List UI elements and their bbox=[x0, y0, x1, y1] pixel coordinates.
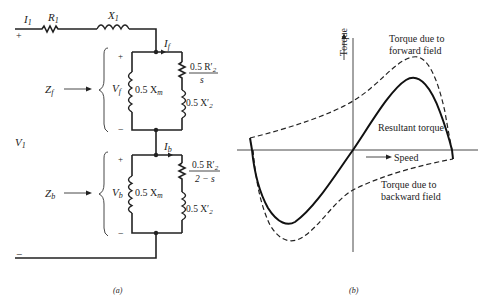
caption-a: (a) bbox=[113, 286, 123, 295]
minus-forward: − bbox=[118, 124, 124, 135]
forward-torque-curve bbox=[250, 57, 452, 150]
r2-forward-denominator: s bbox=[200, 75, 204, 85]
x-axis-label: Speed bbox=[394, 152, 418, 163]
r2-backward-resistor bbox=[179, 163, 185, 192]
r2-forward-resistor bbox=[179, 62, 185, 90]
r2-backward-denominator: 2 − s bbox=[195, 174, 215, 184]
xm-backward-label: 0.5 Xm bbox=[135, 187, 163, 200]
if-label: If bbox=[163, 37, 172, 51]
brace-backward bbox=[99, 152, 108, 236]
xm-forward-label: 0.5 Xm bbox=[135, 84, 163, 97]
forward-left-edge bbox=[250, 138, 252, 150]
top-wire-right bbox=[129, 29, 156, 52]
x2-backward-label: 0.5 X′2 bbox=[186, 204, 213, 216]
arrow-icon bbox=[86, 191, 92, 196]
node-dot bbox=[154, 50, 158, 54]
y-axis-label: Torque bbox=[338, 27, 349, 56]
node-dot bbox=[154, 153, 158, 157]
diagram-canvas: I1 R1 X1 + V1 − If Ib Zf Zb Vf Vb 0.5 Xm… bbox=[0, 0, 494, 295]
forward-label-line2: forward field bbox=[389, 45, 441, 56]
ib-label: Ib bbox=[163, 140, 172, 154]
zf-label: Zf bbox=[45, 83, 55, 97]
xm-forward-inductor bbox=[129, 72, 133, 112]
torque-speed-chart: Torque Speed Torque due to forward field… bbox=[237, 27, 478, 295]
forward-label-line1: Torque due to bbox=[389, 33, 444, 44]
arrow-right-icon bbox=[386, 155, 392, 160]
x2-forward-inductor bbox=[182, 90, 186, 118]
r2-forward-numerator: 0.5 R′2 bbox=[190, 62, 217, 74]
plus-forward: + bbox=[118, 51, 123, 61]
backward-right-edge bbox=[452, 150, 453, 159]
vb-label: Vb bbox=[112, 186, 123, 200]
backward-label-line1: Torque due to bbox=[381, 179, 436, 190]
r2-backward-numerator: 0.5 R′2 bbox=[192, 160, 219, 172]
i1-label: I1 bbox=[23, 13, 32, 27]
caption-b: (b) bbox=[349, 286, 359, 295]
equivalent-circuit: I1 R1 X1 + V1 − If Ib Zf Zb Vf Vb 0.5 Xm… bbox=[15, 9, 220, 295]
xm-backward-inductor bbox=[129, 176, 133, 213]
minus-terminal: − bbox=[16, 248, 22, 260]
resultant-label: Resultant torque bbox=[378, 122, 444, 133]
x1-label: X1 bbox=[107, 9, 119, 23]
minus-backward: − bbox=[118, 228, 124, 239]
zb-label: Zb bbox=[45, 187, 55, 201]
x1-inductor bbox=[97, 25, 129, 29]
plus-backward: + bbox=[118, 154, 123, 164]
x2-forward-label: 0.5 X′2 bbox=[186, 98, 213, 110]
vf-label: Vf bbox=[112, 82, 123, 96]
arrow-icon bbox=[161, 50, 166, 55]
r1-label: R1 bbox=[47, 11, 59, 25]
v1-label: V1 bbox=[15, 136, 26, 150]
x2-backward-inductor bbox=[182, 192, 186, 220]
brace-forward bbox=[99, 48, 108, 132]
backward-label-line2: backward field bbox=[381, 191, 441, 202]
bottom-wire bbox=[15, 233, 156, 258]
plus-terminal: + bbox=[16, 30, 22, 41]
arrow-icon bbox=[86, 87, 92, 92]
